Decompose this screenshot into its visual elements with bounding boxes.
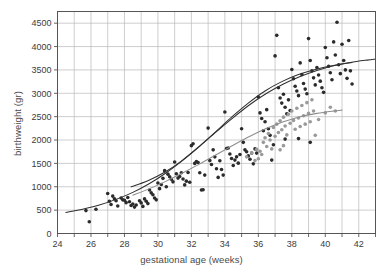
data-point <box>230 157 234 161</box>
data-point <box>245 150 249 154</box>
data-point <box>206 126 210 130</box>
data-point <box>258 111 262 115</box>
x-tick-label: 40 <box>320 239 330 249</box>
x-axis: 24262830323436384042 <box>52 234 375 249</box>
x-axis-title: gestational age (weeks) <box>0 254 383 265</box>
data-point <box>116 204 120 208</box>
data-point <box>250 151 254 155</box>
data-point <box>236 161 240 165</box>
x-tick-label: 30 <box>153 239 163 249</box>
data-point <box>329 106 333 110</box>
data-point <box>201 188 205 192</box>
data-point <box>278 96 282 100</box>
data-point <box>339 72 343 76</box>
data-point <box>175 172 179 176</box>
data-point <box>307 37 311 41</box>
data-point <box>278 148 282 152</box>
data-point <box>282 92 286 96</box>
data-point <box>267 132 271 136</box>
y-tick-label: 4500 <box>31 18 51 28</box>
data-point <box>146 202 150 206</box>
data-point <box>126 196 130 200</box>
data-point <box>317 73 321 77</box>
x-tick-label: 24 <box>52 239 62 249</box>
grid-lines <box>58 12 376 234</box>
curve-upper-fitted-curve <box>66 59 376 212</box>
data-point <box>203 173 207 177</box>
data-point <box>258 149 262 153</box>
data-point <box>240 127 244 131</box>
data-point <box>305 101 309 105</box>
data-point <box>298 125 302 129</box>
data-point <box>347 39 351 43</box>
data-point <box>302 82 306 86</box>
x-tick-label: 34 <box>220 239 230 249</box>
data-point <box>84 209 88 213</box>
y-tick-label: 1500 <box>31 159 51 169</box>
data-point <box>334 53 338 57</box>
y-tick-label: 2500 <box>31 112 51 122</box>
data-point <box>263 120 267 124</box>
data-point <box>300 104 304 108</box>
data-point <box>128 200 132 204</box>
data-point <box>287 113 291 117</box>
data-point <box>313 83 317 87</box>
data-point <box>263 136 267 140</box>
data-point <box>303 122 307 126</box>
data-point <box>310 98 314 102</box>
data-point <box>325 56 329 60</box>
data-point <box>241 141 245 145</box>
data-point <box>245 155 249 159</box>
data-point <box>255 148 259 152</box>
data-point <box>233 158 237 162</box>
data-point <box>185 179 189 183</box>
data-point <box>295 106 299 110</box>
data-point <box>332 40 336 44</box>
data-point <box>223 110 227 114</box>
data-point <box>109 203 113 207</box>
data-point <box>191 142 195 146</box>
data-point <box>280 101 284 105</box>
data-point <box>183 183 187 187</box>
data-point <box>293 127 297 131</box>
birthweight-scatter-chart: 2426283032343638404205001000150020002500… <box>0 0 383 273</box>
data-point <box>295 89 299 93</box>
data-point <box>262 141 266 145</box>
data-point <box>141 205 145 209</box>
data-point <box>265 145 269 149</box>
data-point <box>290 109 294 113</box>
data-point <box>260 117 264 121</box>
data-point <box>320 86 324 90</box>
x-tick-label: 42 <box>354 239 364 249</box>
data-point <box>228 152 232 156</box>
data-point <box>257 157 261 161</box>
data-point <box>313 134 317 138</box>
y-tick-label: 3500 <box>31 65 51 75</box>
y-tick-label: 4000 <box>31 42 51 52</box>
data-point <box>273 134 277 138</box>
y-tick-label: 500 <box>36 205 51 215</box>
data-point <box>270 158 274 162</box>
data-point <box>303 87 307 91</box>
data-point <box>215 167 219 171</box>
data-point <box>181 177 185 181</box>
data-point <box>282 144 286 148</box>
y-axis: 050010001500200025003000350040004500 <box>31 18 57 238</box>
y-tick-label: 2000 <box>31 135 51 145</box>
plot-frame <box>58 12 376 234</box>
data-point <box>283 106 287 110</box>
data-point <box>285 133 289 137</box>
data-point <box>350 82 354 86</box>
data-point <box>275 34 279 38</box>
data-point <box>151 193 155 197</box>
data-point <box>283 137 287 141</box>
data-point <box>255 151 259 155</box>
data-point <box>349 69 353 73</box>
data-point <box>210 163 214 167</box>
plot-canvas: 2426283032343638404205001000150020002500… <box>0 0 383 273</box>
data-point <box>287 98 291 102</box>
data-point <box>280 128 284 132</box>
data-point <box>340 42 344 46</box>
data-point <box>322 91 326 95</box>
data-point <box>330 78 334 82</box>
